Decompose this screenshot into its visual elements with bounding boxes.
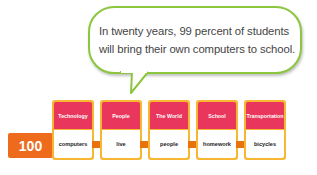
score-badge: 100: [8, 133, 53, 158]
speech-bubble-text: In twenty years, 99 percent of students …: [95, 22, 295, 58]
speech-line-2: will bring their own computers to school…: [99, 40, 295, 58]
card-connector: [92, 141, 100, 148]
card-people[interactable]: People live: [100, 100, 142, 160]
card-word: bicycles: [246, 130, 284, 158]
card-technology[interactable]: Technology computers: [52, 100, 94, 160]
speech-line-1: In twenty years, 99 percent of students: [99, 22, 295, 40]
score-value: 100: [19, 138, 42, 154]
card-word: people: [150, 130, 188, 158]
card-category: School: [198, 102, 236, 129]
card-connector: [188, 141, 196, 148]
speech-bubble: In twenty years, 99 percent of students …: [88, 6, 302, 74]
card-category: Technology: [54, 102, 92, 129]
card-the-world[interactable]: The World people: [148, 100, 190, 160]
card-category: People: [102, 102, 140, 129]
card-category: The World: [150, 102, 188, 129]
card-connector: [140, 141, 148, 148]
card-transportation[interactable]: Transportation bicycles: [244, 100, 286, 160]
card-word: computers: [54, 130, 92, 158]
card-category: Transportation: [246, 102, 284, 129]
card-word: live: [102, 130, 140, 158]
speech-bubble-tail-icon: [118, 71, 162, 95]
card-connector: [236, 141, 244, 148]
card-word: homework: [198, 130, 236, 158]
card-school[interactable]: School homework: [196, 100, 238, 160]
